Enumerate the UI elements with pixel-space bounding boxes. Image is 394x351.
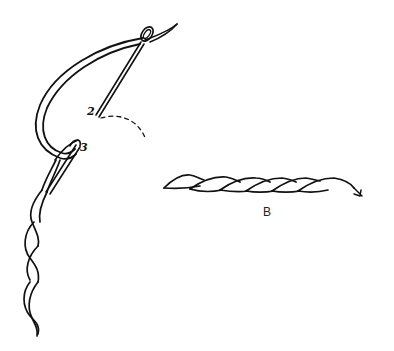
point-3-label: 3 xyxy=(80,141,88,154)
twisted-stitch-horizontal-icon xyxy=(164,175,362,196)
needle-upper-icon xyxy=(96,24,177,117)
stitch-drawing xyxy=(0,0,394,351)
thread-loop-icon xyxy=(36,38,143,160)
dashed-guide-path xyxy=(101,116,146,140)
point-2-label: 2 xyxy=(87,105,95,118)
stitch-illustration: 2 3 B xyxy=(0,0,394,351)
figure-caption-b: B xyxy=(263,205,271,219)
